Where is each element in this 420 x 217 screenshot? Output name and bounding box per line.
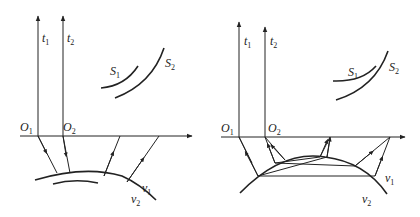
label-t1-right: t1 <box>244 34 251 50</box>
reflection-line-3-right <box>275 163 355 166</box>
ray-o1-b-right <box>239 137 252 163</box>
label-s2-right: S2 <box>389 60 399 76</box>
label-s1-right: S1 <box>348 65 358 81</box>
label-v1-right: v1 <box>385 171 394 187</box>
label-t2-left: t2 <box>67 31 74 47</box>
reflection-line-2-right <box>258 157 327 176</box>
right-panel: t1 t2 S1 S2 O1 O2 v1 v2 <box>221 22 405 208</box>
label-o1-left: O1 <box>20 120 33 136</box>
label-s1-left: S1 <box>110 64 120 80</box>
label-s2-left: S2 <box>165 56 175 72</box>
diagram-canvas: t1 t2 S1 S2 O1 O2 v1 v2 t1 t2 S1 S <box>0 0 420 217</box>
interface-v1-v2-left <box>35 171 156 200</box>
curve-s2-left <box>115 48 164 98</box>
label-v2-right: v2 <box>362 192 371 208</box>
label-t2-right: t2 <box>270 34 277 50</box>
label-t1-left: t1 <box>42 31 49 47</box>
label-o2-right: O2 <box>268 121 281 137</box>
label-v2-left: v2 <box>131 192 140 208</box>
label-o1-right: O1 <box>221 121 234 137</box>
label-o2-left: O2 <box>63 120 76 136</box>
left-panel: t1 t2 S1 S2 O1 O2 v1 v2 <box>20 16 192 208</box>
label-v1-left: v1 <box>142 181 151 197</box>
interface-inner-left <box>53 181 98 184</box>
